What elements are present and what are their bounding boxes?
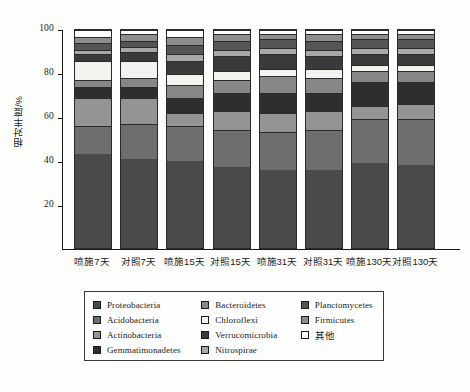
bar-segment[interactable]	[75, 154, 111, 248]
legend-label: Actinobacteria	[107, 330, 161, 340]
bar-segment[interactable]	[260, 132, 296, 169]
legend-item[interactable]: Acidobacteria	[93, 312, 201, 327]
bar-segment[interactable]	[352, 163, 388, 248]
stacked-bar[interactable]	[259, 29, 297, 249]
bar-segment[interactable]	[167, 98, 203, 113]
bar-segment[interactable]	[167, 85, 203, 98]
bar-segment[interactable]	[306, 56, 342, 69]
bar-segment[interactable]	[260, 39, 296, 48]
legend-label: Chloroflexi	[215, 315, 258, 325]
legend-column: ProteobacteriaAcidobacteriaActinobacteri…	[93, 297, 201, 357]
bar-segment[interactable]	[121, 78, 157, 87]
bar-segment[interactable]	[352, 119, 388, 163]
bar-segment[interactable]	[167, 126, 203, 161]
bar-segment[interactable]	[352, 71, 388, 82]
bar-segment[interactable]	[306, 69, 342, 78]
bar-segment[interactable]	[121, 61, 157, 78]
y-tick-label: 60	[44, 111, 54, 121]
bar-segment[interactable]	[260, 54, 296, 69]
bar-segment[interactable]	[214, 41, 250, 50]
stacked-bar[interactable]	[397, 29, 435, 249]
bar-segment[interactable]	[167, 45, 203, 54]
bar-segment[interactable]	[121, 124, 157, 159]
legend-item[interactable]: Bacteroidetes	[201, 297, 301, 312]
legend-item[interactable]: Verrucomicrobia	[201, 327, 301, 342]
stacked-bar[interactable]	[351, 29, 389, 249]
legend-label: Firmicutes	[315, 315, 355, 325]
bar-segment[interactable]	[121, 52, 157, 61]
legend-swatch-icon	[201, 346, 209, 354]
bar-segment[interactable]	[75, 61, 111, 81]
bar-segment[interactable]	[214, 167, 250, 248]
bar-segment[interactable]	[306, 111, 342, 131]
bar-segment[interactable]	[214, 111, 250, 131]
bar-segment[interactable]	[167, 61, 203, 74]
bar-segment[interactable]	[121, 159, 157, 248]
legend-label: 其他	[315, 328, 335, 342]
bar-segment[interactable]	[214, 71, 250, 80]
legend-swatch-icon	[93, 331, 101, 339]
bar-segment[interactable]	[260, 93, 296, 113]
y-tick-mark	[58, 118, 63, 119]
bar-segment[interactable]	[260, 113, 296, 133]
bar-segment[interactable]	[214, 80, 250, 93]
legend-item[interactable]: Firmicutes	[301, 312, 383, 327]
bar-segment[interactable]	[167, 161, 203, 248]
y-tick-label: 40	[44, 155, 54, 165]
bar-segment[interactable]	[306, 130, 342, 169]
bar-segment[interactable]	[352, 106, 388, 119]
legend-item[interactable]: 其他	[301, 327, 383, 342]
bar-segment[interactable]	[214, 93, 250, 110]
legend-item[interactable]: Chloroflexi	[201, 312, 301, 327]
stacked-bar[interactable]	[305, 29, 343, 249]
legend-item[interactable]: Planctomycetes	[301, 297, 383, 312]
bar-segment[interactable]	[398, 165, 434, 248]
legend-item[interactable]: Actinobacteria	[93, 327, 201, 342]
bar-segment[interactable]	[121, 87, 157, 98]
bar-segment[interactable]	[398, 119, 434, 165]
bar-segment[interactable]	[121, 98, 157, 124]
legend-swatch-icon	[201, 301, 209, 309]
bar-segment[interactable]	[260, 170, 296, 248]
bar-segment[interactable]	[352, 82, 388, 106]
bar-segment[interactable]	[398, 104, 434, 119]
figure-canvas: 相对丰度/% 10080604020 喷施7天对照7天喷施15天对照15天喷施3…	[0, 0, 470, 392]
stacked-bar[interactable]	[120, 29, 158, 249]
bar-segment[interactable]	[167, 74, 203, 85]
legend-item[interactable]: Nitrospirae	[201, 342, 301, 357]
bar-segment[interactable]	[306, 78, 342, 93]
y-tick-label: 100	[39, 23, 54, 33]
bar-segment[interactable]	[398, 71, 434, 82]
bar-segment[interactable]	[352, 39, 388, 48]
bar-segment[interactable]	[75, 126, 111, 154]
bar-segment[interactable]	[352, 54, 388, 65]
legend-swatch-icon	[93, 316, 101, 324]
legend-columns: ProteobacteriaAcidobacteriaActinobacteri…	[93, 297, 383, 357]
bar-segment[interactable]	[306, 41, 342, 50]
bar-segment[interactable]	[306, 93, 342, 110]
bar-segment[interactable]	[167, 113, 203, 126]
bar-segment[interactable]	[398, 54, 434, 65]
legend-item[interactable]: Proteobacteria	[93, 297, 201, 312]
bar-segment[interactable]	[214, 56, 250, 71]
legend-item[interactable]: Gemmatimonadetes	[93, 342, 201, 357]
bar-segment[interactable]	[398, 39, 434, 48]
legend-column: BacteroidetesChloroflexiVerrucomicrobiaN…	[201, 297, 301, 357]
legend-label: Gemmatimonadetes	[107, 345, 181, 355]
bar-segment[interactable]	[260, 76, 296, 93]
plot-area: 10080604020	[62, 30, 460, 250]
bar-segment[interactable]	[75, 87, 111, 98]
stacked-bar[interactable]	[166, 29, 204, 249]
bar-segment[interactable]	[167, 37, 203, 46]
stacked-bar[interactable]	[213, 29, 251, 249]
stacked-bar[interactable]	[74, 29, 112, 249]
y-tick-mark	[58, 74, 63, 75]
y-tick-mark	[58, 162, 63, 163]
bar-segment[interactable]	[75, 98, 111, 126]
legend-label: Nitrospirae	[215, 345, 257, 355]
bar-segment[interactable]	[214, 130, 250, 167]
legend-swatch-icon	[301, 301, 309, 309]
bar-segment[interactable]	[306, 170, 342, 248]
bar-segment[interactable]	[398, 82, 434, 104]
legend-swatch-icon	[201, 331, 209, 339]
